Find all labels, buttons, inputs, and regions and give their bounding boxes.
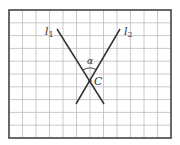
point-c-label: C	[94, 75, 103, 88]
angle-alpha-label: α	[87, 56, 93, 66]
line-l2-label: l2	[124, 25, 133, 39]
angle-diagram: l1 l2 α C	[0, 0, 180, 145]
line-l1	[57, 29, 104, 104]
intersection-point	[88, 79, 91, 82]
line-l2	[76, 29, 120, 104]
grid	[9, 10, 171, 138]
